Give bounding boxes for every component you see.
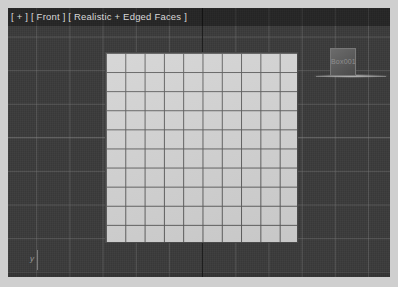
object-plane[interactable] — [105, 52, 298, 243]
viewport-front[interactable]: [ + ] [ Front ] [ Realistic + Edged Face… — [8, 8, 390, 277]
viewport-bottom-band — [8, 271, 390, 277]
plane-edged-faces — [106, 53, 297, 242]
axis-y-label: y — [30, 254, 34, 263]
box-ground-line — [316, 76, 386, 77]
viewport-label[interactable]: [ + ] [ Front ] [ Realistic + Edged Face… — [11, 11, 187, 23]
viewport-window: [ + ] [ Front ] [ Realistic + Edged Face… — [0, 0, 398, 287]
box-label: Box001 — [331, 58, 355, 65]
object-box[interactable]: Box001 — [330, 48, 356, 76]
axis-y-line — [37, 250, 38, 270]
